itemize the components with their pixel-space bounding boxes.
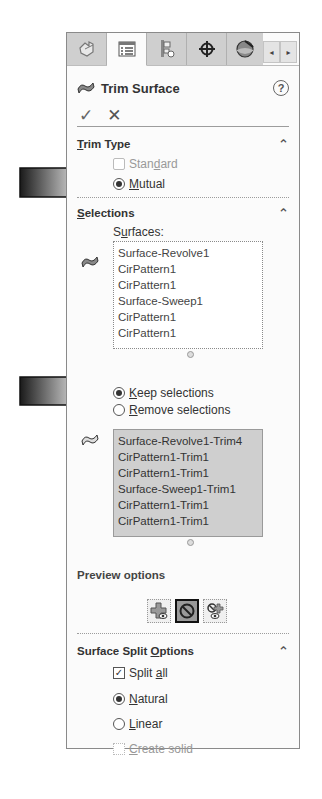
configuration-icon	[159, 39, 175, 59]
radio-mutual[interactable]	[113, 178, 125, 190]
radio-standard[interactable]	[113, 158, 125, 170]
property-manager-panel: ◂ ▸ Trim Surface ? ✓ ✕ Trim Type ⌃ Stand…	[66, 32, 300, 749]
cancel-button[interactable]: ✕	[107, 105, 121, 126]
action-buttons: ✓ ✕	[79, 105, 122, 126]
radio-linear[interactable]	[113, 718, 125, 730]
property-header: Trim Surface ?	[77, 77, 289, 99]
list-item[interactable]: CirPattern1	[118, 277, 258, 293]
radio-remove-selections[interactable]	[113, 404, 125, 416]
create-solid-option[interactable]: Create solid	[113, 742, 193, 756]
list-item[interactable]: CirPattern1	[118, 261, 258, 277]
help-icon[interactable]: ?	[273, 80, 289, 96]
preview-options-buttons	[147, 599, 227, 623]
ok-button[interactable]: ✓	[79, 105, 93, 126]
natural-option[interactable]: Natural	[113, 692, 168, 706]
tab-configuration-manager[interactable]	[147, 33, 187, 65]
list-item[interactable]: CirPattern1-Trim1	[118, 497, 258, 513]
feature-tree-icon	[77, 40, 97, 58]
no-preview-icon	[178, 602, 196, 620]
appearance-sphere-icon	[235, 39, 255, 59]
preview-options-label: Preview options	[77, 569, 165, 581]
list-item[interactable]: Surface-Sweep1	[118, 293, 258, 309]
tab-feature-manager[interactable]	[67, 33, 107, 65]
list-item[interactable]: Surface-Revolve1	[118, 245, 258, 261]
surface-split-options-section-header[interactable]: Surface Split Options ⌃	[77, 643, 289, 659]
scroll-left-button[interactable]: ◂	[263, 41, 280, 63]
list-item[interactable]: CirPattern1-Trim1	[118, 449, 258, 465]
trim-type-section-header[interactable]: Trim Type ⌃	[77, 136, 289, 152]
show-included-preview-button[interactable]	[147, 599, 171, 623]
crosshair-target-icon	[198, 40, 216, 58]
header-divider	[77, 126, 289, 127]
list-item[interactable]: Surface-Sweep1-Trim1	[118, 481, 258, 497]
page-title: Trim Surface	[101, 81, 273, 96]
list-item[interactable]: Surface-Revolve1-Trim4	[118, 433, 258, 449]
split-all-checkbox[interactable]: ✓	[113, 667, 125, 679]
list-item[interactable]: CirPattern1	[118, 325, 258, 341]
trim-surface-icon	[77, 81, 95, 95]
chevron-left-icon: ◂	[269, 48, 273, 57]
surface-selection-icon	[81, 255, 99, 269]
remove-selections-option[interactable]: Remove selections	[113, 403, 230, 417]
add-preview-icon	[150, 602, 168, 620]
trim-type-mutual-option[interactable]: Mutual	[113, 177, 165, 191]
tab-display-manager[interactable]	[227, 33, 263, 65]
list-item[interactable]: CirPattern1-Trim1	[118, 465, 258, 481]
split-all-option[interactable]: ✓ Split all	[113, 666, 168, 680]
trim-type-title: Trim Type	[77, 138, 130, 150]
selections-section-header[interactable]: Selections ⌃	[77, 205, 289, 221]
trim-type-standard-option[interactable]: Standard	[113, 157, 178, 171]
collapse-chevron-icon[interactable]: ⌃	[278, 137, 289, 152]
exclude-preview-icon	[206, 602, 224, 620]
pieces-selection-icon	[81, 433, 99, 447]
surface-split-options-title: Surface Split Options	[77, 645, 194, 657]
collapse-chevron-icon[interactable]: ⌃	[278, 644, 289, 659]
no-preview-button[interactable]	[175, 599, 199, 623]
show-excluded-preview-button[interactable]	[203, 599, 227, 623]
radio-keep-selections[interactable]	[113, 387, 125, 399]
radio-natural[interactable]	[113, 693, 125, 705]
scroll-right-button[interactable]: ▸	[280, 41, 297, 63]
section-divider	[77, 197, 289, 198]
list-item[interactable]: CirPattern1	[118, 309, 258, 325]
selections-title: Selections	[77, 207, 135, 219]
section-divider	[77, 633, 289, 634]
listbox-resize-handle[interactable]	[187, 539, 194, 546]
tab-dimxpert-manager[interactable]	[187, 33, 227, 65]
linear-option[interactable]: Linear	[113, 717, 162, 731]
create-solid-checkbox[interactable]	[113, 743, 125, 755]
pieces-to-keep-listbox[interactable]: Surface-Revolve1-Trim4 CirPattern1-Trim1…	[113, 429, 263, 537]
manager-tabs: ◂ ▸	[67, 33, 299, 66]
collapse-chevron-icon[interactable]: ⌃	[278, 206, 289, 221]
property-list-icon	[118, 41, 136, 57]
keep-selections-option[interactable]: Keep selections	[113, 386, 214, 400]
surfaces-listbox[interactable]: Surface-Revolve1 CirPattern1 CirPattern1…	[113, 241, 263, 349]
surfaces-label: Surfaces:	[113, 225, 164, 239]
tab-property-manager[interactable]	[107, 33, 147, 66]
tab-scroll-controls: ◂ ▸	[263, 33, 297, 65]
listbox-resize-handle[interactable]	[187, 351, 194, 358]
chevron-right-icon: ▸	[286, 48, 290, 57]
list-item[interactable]: CirPattern1-Trim1	[118, 513, 258, 529]
